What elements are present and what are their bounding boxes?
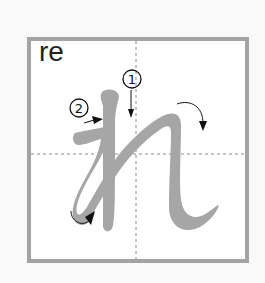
curve-arrow-top-right-icon	[177, 103, 207, 131]
stroke-number-2: 2	[70, 99, 88, 117]
svg-text:2: 2	[75, 101, 83, 116]
stroke-2-start-arrow-icon	[84, 116, 103, 124]
stroke-1-direction-arrow-icon	[128, 90, 134, 118]
practice-grid: re 1 2	[27, 37, 249, 263]
stroke-number-1: 1	[123, 70, 141, 88]
svg-text:1: 1	[128, 72, 136, 87]
stroke-2	[73, 113, 219, 230]
kana-re-glyph	[73, 89, 219, 231]
stroke-diagram: 1 2	[31, 41, 245, 259]
